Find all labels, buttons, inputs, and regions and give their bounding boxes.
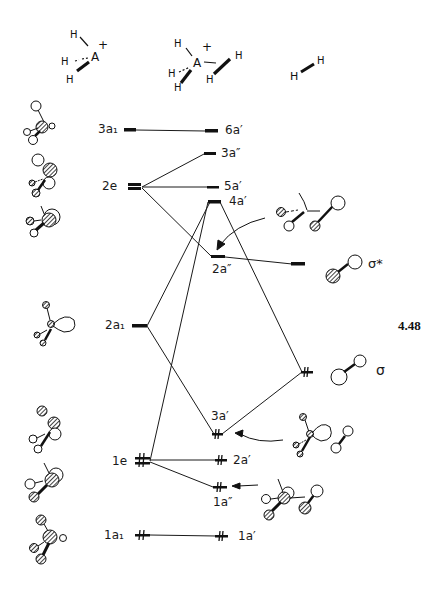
atom-h: H (206, 74, 214, 85)
orbital-sketch-1e-a (29, 406, 61, 453)
left-level-1e (135, 453, 150, 467)
orbital-sketch-1e-b (25, 463, 63, 502)
label-2e: 2e (102, 180, 117, 192)
orbital-sketch-2a-double-prime (277, 193, 346, 231)
figure-number: 4.48 (398, 318, 421, 334)
left-level-3a1 (124, 128, 136, 132)
correlation-lines (136, 130, 302, 536)
label-2a1: 2a₁ (105, 319, 125, 331)
left-fragment-structure (75, 37, 89, 71)
label-1a-double-prime: 1a″ (213, 496, 232, 508)
middle-level-2a-prime (215, 455, 227, 465)
left-level-2a1 (132, 324, 147, 328)
label-3a1: 3a₁ (98, 123, 118, 135)
atom-h: H (70, 29, 78, 40)
atom-h: H (66, 74, 74, 85)
orbital-sketch-1a-double-prime (262, 479, 324, 520)
arrow-to-1a-double-prime (232, 483, 258, 489)
atom-a: A (193, 56, 201, 70)
orbital-sketch-1a1 (30, 515, 67, 564)
left-level-1a1 (135, 530, 150, 540)
middle-level-4a-prime (208, 200, 221, 204)
charge-plus: + (202, 40, 212, 54)
charge-plus: + (98, 38, 108, 52)
right-fragment-structure (301, 64, 314, 72)
atom-h: H (174, 82, 182, 93)
label-1e: 1e (112, 455, 127, 467)
atom-h: H (235, 50, 243, 61)
label-5a-prime: 5a′ (224, 180, 242, 192)
label-sigma: σ (376, 363, 385, 377)
orbital-sketch-2e-a (29, 154, 57, 197)
middle-level-1a-prime (215, 531, 228, 541)
right-level-sigma-star (291, 262, 305, 266)
orbital-sketch-3a-prime (293, 414, 353, 458)
orbital-sketch-2a1 (34, 302, 75, 347)
label-3a-prime: 3a′ (211, 410, 229, 422)
atom-h: H (174, 38, 182, 49)
middle-level-3a-double-prime (204, 152, 216, 155)
label-sigma-star: σ* (368, 257, 383, 270)
atom-a: A (91, 50, 99, 64)
atom-h: H (290, 70, 298, 83)
atom-h: H (168, 68, 176, 79)
label-4a-prime: 4a′ (229, 195, 247, 207)
right-level-sigma (301, 367, 313, 377)
label-2a-double-prime: 2a″ (212, 263, 231, 275)
middle-level-6a-prime (205, 129, 218, 133)
arrow-to-3a-prime (235, 430, 283, 441)
middle-level-2a-double-prime (211, 255, 225, 258)
left-level-2e (128, 183, 141, 190)
atom-h: H (61, 56, 69, 67)
label-1a-prime: 1a′ (238, 530, 256, 542)
middle-level-5a-prime (207, 186, 219, 189)
label-3a-double-prime: 3a″ (221, 147, 240, 159)
orbital-sketch-sigma (331, 355, 366, 385)
middle-level-3a-prime (212, 429, 223, 439)
label-2a-prime: 2a′ (233, 454, 251, 466)
atom-h: H (317, 55, 325, 66)
label-6a-prime: 6a′ (225, 124, 243, 136)
middle-level-1a-double-prime (213, 482, 227, 492)
orbital-sketch-2e-b (26, 206, 60, 237)
orbital-sketch-sigma-star (326, 255, 362, 283)
orbital-sketch-3a1 (24, 101, 56, 145)
label-1a1: 1a₁ (104, 529, 124, 541)
